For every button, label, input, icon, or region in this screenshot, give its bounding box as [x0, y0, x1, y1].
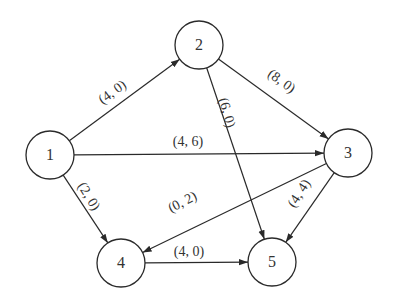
edge-label-1-2: (4, 0)	[96, 77, 130, 108]
graph-svg: (4, 0)(4, 6)(2, 0)(8, 0)(6, 0)(0, 2)(4, …	[0, 0, 394, 298]
edge-label-2-3: (8, 0)	[264, 66, 298, 97]
node-label: 2	[195, 36, 203, 53]
node-label: 1	[46, 146, 54, 163]
edge-label-4-5: (4, 0)	[174, 244, 205, 260]
edge-1-to-3	[74, 153, 324, 155]
node-label: 5	[268, 253, 276, 270]
edge-label-3-4: (0, 2)	[166, 188, 201, 216]
node-label: 4	[117, 254, 125, 271]
edge-label-2-5: (6, 0)	[215, 96, 239, 130]
edge-1-to-2	[69, 59, 179, 140]
node-4: 4	[97, 239, 145, 287]
edge-label-1-4: (2, 0)	[74, 179, 104, 213]
edge-4-to-5	[145, 262, 248, 263]
network-diagram: (4, 0)(4, 6)(2, 0)(8, 0)(6, 0)(0, 2)(4, …	[0, 0, 394, 298]
edge-labels-group: (4, 0)(4, 6)(2, 0)(8, 0)(6, 0)(0, 2)(4, …	[74, 66, 315, 260]
node-2: 2	[175, 21, 223, 69]
edge-label-1-3: (4, 6)	[173, 134, 204, 150]
node-3: 3	[324, 129, 372, 177]
node-1: 1	[26, 131, 74, 179]
node-5: 5	[248, 238, 296, 286]
node-label: 3	[344, 144, 352, 161]
